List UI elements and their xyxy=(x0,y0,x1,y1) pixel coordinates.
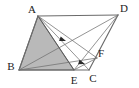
vertex-label-C: C xyxy=(89,72,96,84)
vertex-label-E: E xyxy=(71,74,78,86)
geometry-figure: A D B E C F xyxy=(0,0,139,88)
shaded-triangle-ABE xyxy=(19,16,74,70)
segment-AD xyxy=(38,15,118,16)
vertex-label-F: F xyxy=(98,47,104,59)
vertex-label-D: D xyxy=(120,2,128,14)
geometry-canvas: A D B E C F xyxy=(0,0,139,88)
vertex-label-A: A xyxy=(28,3,36,15)
vertex-label-B: B xyxy=(7,60,14,72)
